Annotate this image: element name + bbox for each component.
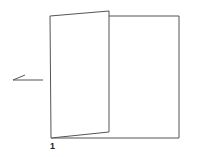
folding-panel — [50, 11, 109, 138]
step-label: 1 — [50, 141, 55, 151]
arrow-left-icon — [13, 75, 43, 80]
fold-diagram — [0, 0, 200, 157]
